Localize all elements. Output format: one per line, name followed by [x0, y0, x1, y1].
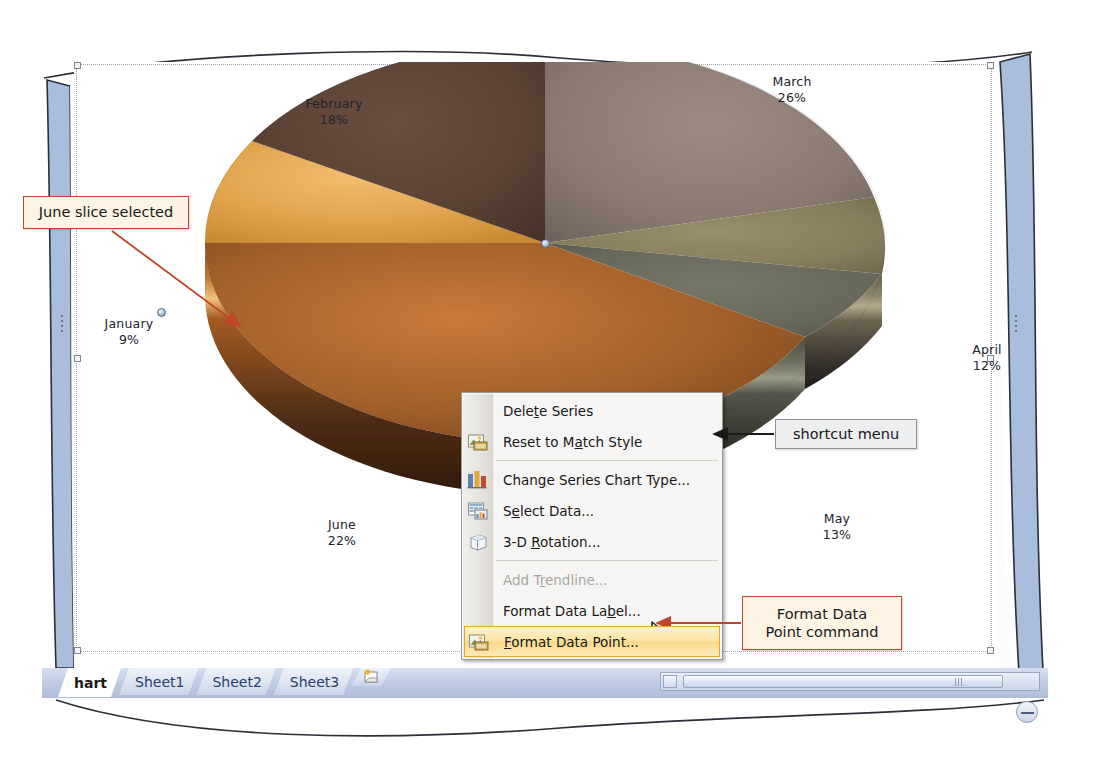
- sheet-tab-sheet2-label: Sheet2: [212, 674, 261, 690]
- pie-label-january: January 9%: [74, 316, 184, 348]
- menu-item-reset-to-match-style-label: Reset to Match Style: [503, 434, 642, 450]
- callout-shortcut-menu-text: shortcut menu: [793, 425, 899, 443]
- insert-worksheet-tab[interactable]: [351, 668, 391, 686]
- sheet-tab-chart-label: hart: [74, 675, 107, 691]
- pie-label-march-name: March: [772, 74, 811, 89]
- menu-separator-1: [496, 460, 718, 461]
- menu-item-select-data-label: Select Data...: [503, 503, 594, 519]
- callout-format-data-point-line1: Format Data: [777, 605, 867, 623]
- chart-type-icon: [467, 470, 489, 490]
- menu-item-format-data-label-label: Format Data Label...: [503, 603, 641, 619]
- pie-label-april: April 12%: [932, 342, 1042, 374]
- callout-june-slice-selected: June slice selected: [23, 196, 189, 229]
- pie-label-february: February 18%: [279, 96, 389, 128]
- select-data-icon: [467, 501, 489, 521]
- menu-item-format-data-label[interactable]: Format Data Label...: [462, 595, 722, 626]
- figure-canvas: February 18% March 26% January 9% April …: [0, 0, 1093, 757]
- pie-label-april-name: April: [972, 342, 1002, 357]
- pie-label-january-name: January: [105, 316, 154, 331]
- format-point-icon: [468, 632, 490, 652]
- sheet-tab-sheet1[interactable]: Sheet1: [119, 668, 198, 695]
- scroll-left-button[interactable]: [663, 675, 677, 688]
- slice-handle-center[interactable]: [541, 239, 550, 248]
- menu-item-format-data-point-label: Format Data Point...: [504, 634, 639, 650]
- sheet-tab-sheet3[interactable]: Sheet3: [274, 668, 353, 695]
- sheet-tab-sheet3-label: Sheet3: [290, 674, 339, 690]
- menu-item-add-trendline: Add Trendline...: [462, 564, 722, 595]
- rotation-icon: [467, 532, 489, 552]
- sheet-tab-list[interactable]: hart Sheet1 Sheet2 Sheet3: [58, 668, 391, 698]
- menu-item-delete-series-label: Delete Series: [503, 403, 593, 419]
- callout-june-slice-selected-text: June slice selected: [39, 203, 174, 221]
- zoom-out-button[interactable]: [1016, 701, 1038, 723]
- reset-style-icon: [467, 432, 489, 452]
- horizontal-scrollbar[interactable]: [660, 672, 1040, 691]
- menu-item-3d-rotation-label: 3-D Rotation...: [503, 534, 601, 550]
- menu-item-delete-series[interactable]: Delete Series: [462, 395, 722, 426]
- pie-label-june-name: June: [328, 517, 356, 532]
- callout-format-data-point-command: Format Data Point command: [742, 596, 902, 650]
- pie-label-april-pct: 12%: [932, 358, 1042, 374]
- scroll-thumb-grip: [955, 678, 962, 686]
- menu-item-add-trendline-label: Add Trendline...: [503, 572, 608, 588]
- menu-item-format-data-point[interactable]: Format Data Point...: [464, 626, 720, 657]
- menu-item-change-series-chart-type[interactable]: Change Series Chart Type...: [462, 464, 722, 495]
- menu-item-3d-rotation[interactable]: 3-D Rotation...: [462, 526, 722, 557]
- shortcut-menu[interactable]: Delete Series Reset to Match Style Chang…: [461, 392, 723, 660]
- callout-shortcut-menu: shortcut menu: [775, 419, 917, 449]
- pie-label-march-pct: 26%: [737, 90, 847, 106]
- pie-label-february-pct: 18%: [279, 112, 389, 128]
- menu-item-reset-to-match-style[interactable]: Reset to Match Style: [462, 426, 722, 457]
- pie-label-may: May 13%: [782, 511, 892, 543]
- pie-label-february-name: February: [306, 96, 363, 111]
- pie-label-march: March 26%: [737, 74, 847, 106]
- pie-label-june-pct: 22%: [287, 533, 397, 549]
- sheet-tab-sheet1-label: Sheet1: [135, 674, 184, 690]
- menu-separator-2: [496, 560, 718, 561]
- pie-label-may-pct: 13%: [782, 527, 892, 543]
- menu-item-change-series-chart-type-label: Change Series Chart Type...: [503, 472, 690, 488]
- menu-item-select-data[interactable]: Select Data...: [462, 495, 722, 526]
- pie-label-january-pct: 9%: [74, 332, 184, 348]
- insert-worksheet-icon: [361, 668, 381, 686]
- sheet-tab-sheet2[interactable]: Sheet2: [196, 668, 275, 695]
- pie-label-june: June 22%: [287, 517, 397, 549]
- callout-format-data-point-line2: Point command: [766, 623, 879, 641]
- pie-label-may-name: May: [824, 511, 850, 526]
- sheet-tab-chart[interactable]: hart: [58, 668, 121, 697]
